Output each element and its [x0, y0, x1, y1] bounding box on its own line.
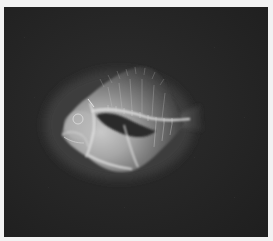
image-frame — [0, 0, 273, 241]
xray-photo — [4, 7, 268, 237]
skull — [64, 111, 96, 139]
fish-xray-illustration — [4, 7, 268, 237]
